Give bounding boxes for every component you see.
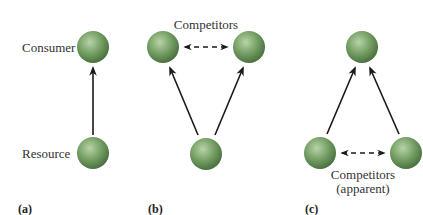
panel-a bbox=[77, 31, 109, 169]
consumer-node bbox=[77, 31, 109, 63]
panel-label-c: (c) bbox=[305, 203, 318, 215]
panel-label-a: (a) bbox=[18, 203, 32, 215]
competitor-right-node bbox=[233, 31, 265, 63]
apparent-competitors-label-line2: (apparent) bbox=[336, 182, 389, 195]
competitor-left-node bbox=[147, 31, 179, 63]
panel-c bbox=[304, 31, 422, 169]
consumer-label: Consumer bbox=[22, 41, 75, 54]
arrow-to-competitor-left bbox=[170, 68, 198, 135]
panel-b bbox=[147, 31, 265, 170]
shared-consumer-node bbox=[346, 31, 378, 63]
apparent-competitors-label-line1: Competitors bbox=[331, 168, 395, 181]
panel-label-b: (b) bbox=[148, 203, 163, 215]
competitors-label: Competitors bbox=[174, 18, 238, 31]
resource-node bbox=[77, 137, 109, 169]
prey-left-node bbox=[304, 137, 336, 169]
arrow-to-competitor-right bbox=[215, 68, 243, 135]
arrow-left-to-predator bbox=[327, 68, 355, 134]
arrow-right-to-predator bbox=[370, 68, 399, 134]
prey-right-node bbox=[390, 137, 422, 169]
resource-label: Resource bbox=[22, 147, 70, 160]
shared-resource-node bbox=[190, 138, 222, 170]
